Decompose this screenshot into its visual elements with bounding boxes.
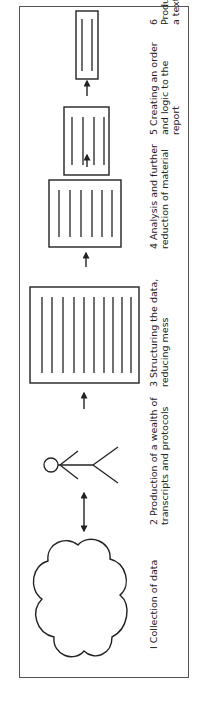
step-6-label: 6 Producing a text (148, 0, 181, 25)
document-icon (49, 180, 121, 247)
step-1-label: I Collection of data (148, 560, 159, 649)
step-4-label: 4 Analysis and further reduction of mate… (148, 144, 170, 249)
step-3-label: 3 Structuring the data, reducing mess (148, 279, 170, 387)
step-5-label: 5 Creating an order and logic to the rep… (148, 42, 181, 135)
process-diagram: I Collection of data 2 Production of a w… (19, 6, 189, 678)
document-icon (76, 11, 98, 79)
step-2-label: 2 Production of a wealth of transcripts … (148, 397, 170, 525)
person-icon (44, 447, 118, 483)
cloud-icon (33, 539, 127, 656)
document-stack-icon (30, 287, 139, 383)
